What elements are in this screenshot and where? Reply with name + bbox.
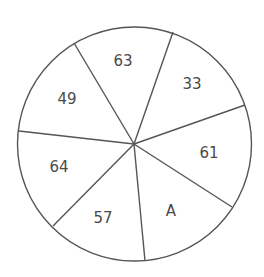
segment-label-unknown-a: A — [166, 202, 177, 220]
segment-label-63: 63 — [113, 52, 132, 70]
segment-labels: 63 33 61 A 57 64 49 — [49, 52, 218, 227]
number-wheel-diagram: 63 33 61 A 57 64 49 — [0, 0, 264, 277]
segment-label-64: 64 — [49, 158, 68, 176]
segment-label-49: 49 — [57, 90, 76, 108]
segment-label-61: 61 — [199, 144, 218, 162]
spoke-line-3 — [134, 105, 245, 144]
segment-label-33: 33 — [182, 75, 201, 93]
spoke-line-7 — [19, 131, 134, 144]
spoke-line-2 — [134, 32, 173, 144]
spoke-line-5 — [134, 144, 145, 261]
segment-label-57: 57 — [93, 209, 112, 227]
